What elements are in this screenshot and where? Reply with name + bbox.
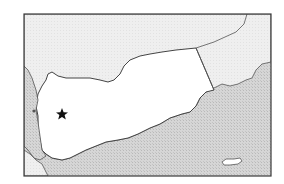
locator-map — [0, 0, 284, 184]
kamaran-island — [32, 109, 35, 112]
